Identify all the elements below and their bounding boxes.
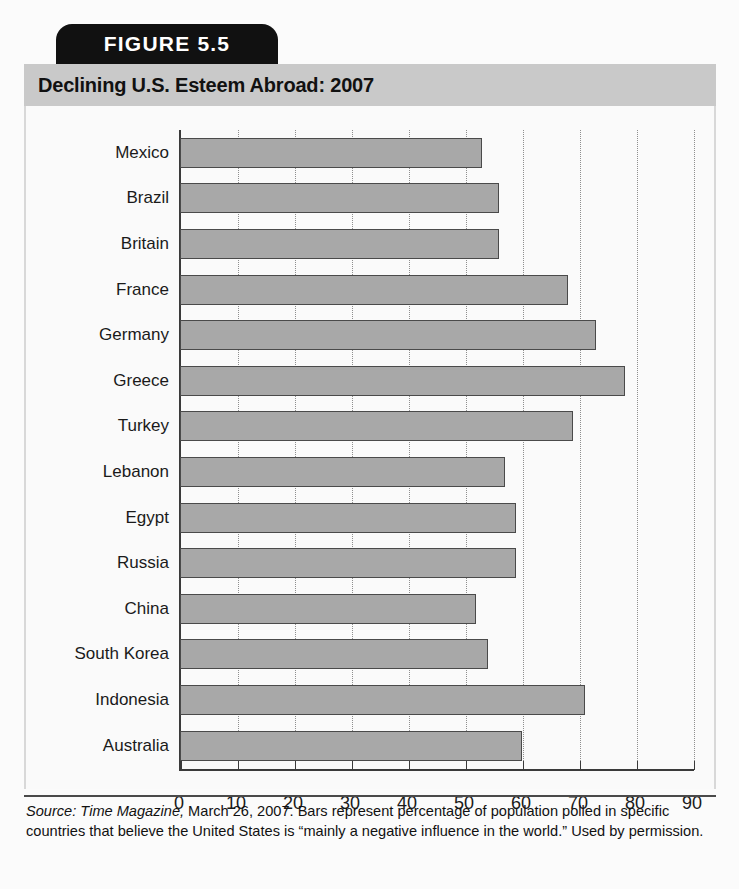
figure-caption: Source: Time Magazine, March 26, 2007. B…: [26, 802, 716, 841]
bar-row: Turkey: [181, 404, 694, 450]
bar-row: South Korea: [181, 632, 694, 678]
category-label-russia: Russia: [117, 553, 169, 573]
bar-mexico: [180, 138, 482, 168]
bar-brazil: [180, 183, 499, 213]
category-label-china: China: [125, 599, 169, 619]
category-label-germany: Germany: [99, 325, 169, 345]
bar-lebanon: [180, 457, 505, 487]
bar-indonesia: [180, 685, 585, 715]
figure-title-band: Declining U.S. Esteem Abroad: 2007: [24, 64, 716, 106]
bar-row: Australia: [181, 723, 694, 769]
category-label-mexico: Mexico: [115, 143, 169, 163]
figure-page: FIGURE 5.5 Declining U.S. Esteem Abroad:…: [0, 0, 739, 889]
bar-australia: [180, 731, 522, 761]
category-label-egypt: Egypt: [126, 508, 169, 528]
figure-number-label: FIGURE 5.5: [104, 32, 230, 56]
bar-rows: MexicoBrazilBritainFranceGermanyGreeceTu…: [181, 130, 694, 769]
caption-divider: [24, 795, 716, 797]
figure-number-tab: FIGURE 5.5: [56, 24, 278, 64]
bar-britain: [180, 229, 499, 259]
bar-row: Greece: [181, 358, 694, 404]
bar-south-korea: [180, 639, 488, 669]
bar-row: Germany: [181, 312, 694, 358]
figure-title: Declining U.S. Esteem Abroad: 2007: [38, 74, 374, 97]
category-label-indonesia: Indonesia: [95, 690, 169, 710]
plot-area: MexicoBrazilBritainFranceGermanyGreeceTu…: [179, 130, 694, 771]
caption-publication: Time Magazine,: [80, 803, 184, 819]
category-label-britain: Britain: [121, 234, 169, 254]
bar-turkey: [180, 411, 573, 441]
bar-row: Brazil: [181, 176, 694, 222]
category-label-south-korea: South Korea: [74, 644, 169, 664]
category-label-australia: Australia: [103, 736, 169, 756]
chart-panel: MexicoBrazilBritainFranceGermanyGreeceTu…: [24, 106, 716, 789]
bar-row: China: [181, 586, 694, 632]
category-label-brazil: Brazil: [126, 188, 169, 208]
bar-row: Britain: [181, 221, 694, 267]
bar-row: Indonesia: [181, 677, 694, 723]
bar-france: [180, 275, 568, 305]
tick-90: [694, 761, 695, 770]
category-label-lebanon: Lebanon: [103, 462, 169, 482]
bar-row: Egypt: [181, 495, 694, 541]
category-label-greece: Greece: [113, 371, 169, 391]
bar-row: Mexico: [181, 130, 694, 176]
bar-russia: [180, 548, 516, 578]
gridline-90: [694, 130, 696, 769]
bar-germany: [180, 320, 596, 350]
bar-row: France: [181, 267, 694, 313]
bar-greece: [180, 366, 625, 396]
bar-china: [180, 594, 476, 624]
category-label-turkey: Turkey: [118, 416, 169, 436]
caption-source-word: Source:: [26, 803, 76, 819]
bar-row: Lebanon: [181, 449, 694, 495]
bar-row: Russia: [181, 540, 694, 586]
bar-egypt: [180, 503, 516, 533]
category-label-france: France: [116, 280, 169, 300]
